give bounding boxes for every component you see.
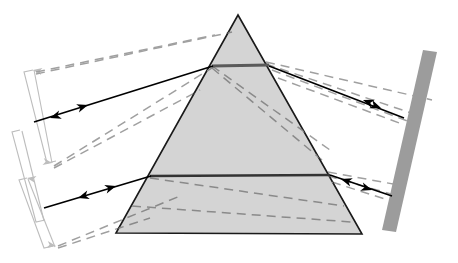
lower-internal-beam: [150, 175, 330, 176]
diagram-canvas: [0, 0, 458, 263]
upper-internal-beam: [212, 65, 269, 66]
prism-ray-diagram: [0, 0, 458, 263]
